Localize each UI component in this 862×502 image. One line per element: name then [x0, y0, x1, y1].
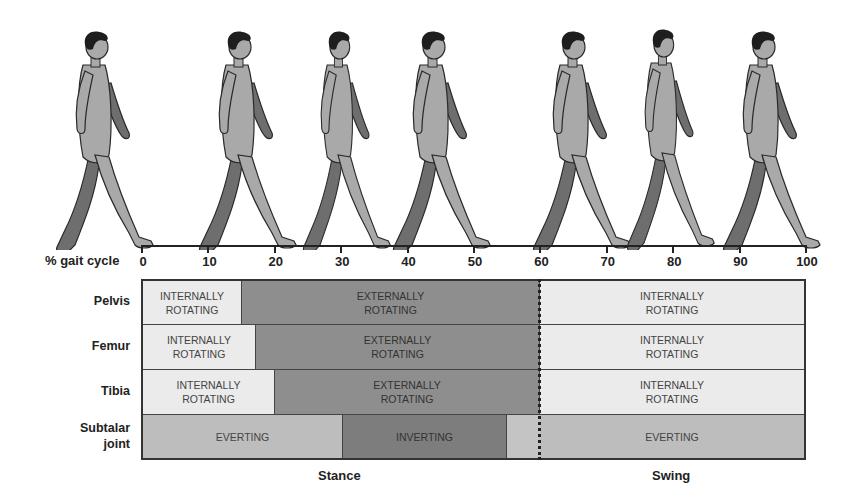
row-femur: INTERNALLYROTATING EXTERNALLYROTATING IN… — [143, 325, 804, 370]
axis-tick — [739, 245, 741, 253]
row-label-pelvis: Pelvis — [94, 293, 130, 309]
axis-tick-label: 50 — [455, 254, 495, 269]
axis-tick — [340, 245, 342, 253]
axis-tick — [539, 245, 541, 253]
segment-femur-internal-2: INTERNALLYROTATING — [540, 325, 804, 370]
axis-tick — [207, 245, 209, 253]
row-label-tibia: Tibia — [101, 383, 130, 399]
segment-pelvis-internal-1: INTERNALLYROTATING — [143, 281, 242, 325]
walker-figure-4 — [394, 32, 490, 251]
segment-tibia-external: EXTERNALLYROTATING — [275, 370, 540, 415]
axis-tick-label: 20 — [256, 254, 296, 269]
walker-figure-2 — [200, 32, 296, 251]
walker-figure-1 — [57, 32, 153, 251]
row-tibia: INTERNALLYROTATING EXTERNALLYROTATING IN… — [143, 370, 804, 415]
axis-tick-label: 60 — [521, 254, 561, 269]
axis-tick-label: 30 — [322, 254, 362, 269]
segment-tibia-internal-1: INTERNALLYROTATING — [143, 370, 275, 415]
axis-tick-label: 0 — [123, 254, 163, 269]
axis-tick-label: 100 — [787, 254, 827, 269]
axis-tick — [407, 245, 409, 253]
axis-tick-label: 40 — [389, 254, 429, 269]
segment-subtalar-everting-1: EVERTING — [143, 415, 343, 458]
axis-tick — [672, 245, 674, 253]
axis-tick — [141, 245, 143, 253]
row-pelvis: INTERNALLYROTATING EXTERNALLYROTATING IN… — [143, 281, 804, 325]
phase-label-swing: Swing — [652, 468, 690, 483]
segment-subtalar-everting-2: EVERTING — [540, 415, 804, 458]
axis-tick-label: 10 — [189, 254, 229, 269]
axis-title: % gait cycle — [45, 253, 119, 268]
axis-tick-label: 80 — [654, 254, 694, 269]
phase-label-stance: Stance — [318, 468, 361, 483]
walking-figures — [0, 0, 862, 250]
axis-tick-label: 70 — [588, 254, 628, 269]
segment-tibia-internal-2: INTERNALLYROTATING — [540, 370, 804, 415]
segment-pelvis-external: EXTERNALLYROTATING — [242, 281, 540, 325]
axis-tick — [274, 245, 276, 253]
segment-femur-external: EXTERNALLYROTATING — [256, 325, 540, 370]
axis-tick-label: 90 — [721, 254, 761, 269]
row-label-femur: Femur — [92, 338, 130, 354]
axis-tick — [606, 245, 608, 253]
segment-subtalar-everting-transition — [507, 415, 540, 458]
axis-tick — [473, 245, 475, 253]
walker-figure-5 — [534, 32, 630, 251]
segment-femur-internal-1: INTERNALLYROTATING — [143, 325, 256, 370]
row-subtalar: EVERTING INVERTING EVERTING — [143, 415, 804, 458]
walker-figure-6 — [627, 30, 714, 251]
segment-pelvis-internal-2: INTERNALLYROTATING — [540, 281, 804, 325]
joint-rotation-table: INTERNALLYROTATING EXTERNALLYROTATING IN… — [141, 279, 806, 460]
walker-figure-7 — [724, 32, 820, 251]
stance-swing-divider — [538, 279, 541, 460]
row-label-subtalar: Subtalarjoint — [80, 420, 130, 452]
walker-figure-3 — [303, 32, 390, 251]
segment-subtalar-inverting: INVERTING — [343, 415, 507, 458]
axis-tick — [805, 245, 807, 253]
